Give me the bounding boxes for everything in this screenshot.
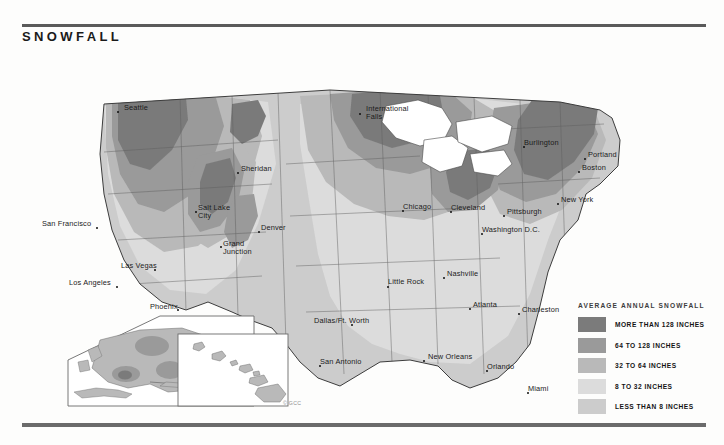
city-label: Seattle — [124, 104, 148, 112]
legend-swatch — [578, 379, 606, 394]
city-label: Washington D.C. — [482, 226, 540, 234]
legend-entry: 8 TO 32 INCHES — [578, 378, 718, 395]
legend-swatch — [578, 338, 606, 353]
legend-swatch — [578, 317, 606, 332]
city-label: Charleston — [522, 306, 559, 314]
city-label: Nashville — [447, 270, 478, 278]
city-label: Chicago — [403, 203, 431, 211]
city-label: Phoenix — [150, 303, 178, 311]
legend-rows: MORE THAN 128 INCHES64 TO 128 INCHES32 T… — [578, 316, 718, 415]
city-label: Salt Lake City — [198, 204, 244, 221]
legend-label: MORE THAN 128 INCHES — [615, 321, 705, 328]
city-label: Boston — [582, 164, 606, 172]
city-label: Denver — [261, 224, 286, 232]
city-label: Dallas/Ft. Worth — [314, 317, 369, 325]
city-label: Miami — [528, 385, 548, 393]
city-label: Sheridan — [241, 165, 272, 173]
city-label: International Falls — [366, 105, 412, 122]
footer-rule-bottom — [22, 423, 706, 427]
city-label: San Antonio — [320, 358, 362, 366]
city-label: Atlanta — [473, 301, 497, 309]
legend-entry: MORE THAN 128 INCHES — [578, 316, 718, 333]
legend-label: 32 TO 64 INCHES — [615, 362, 677, 369]
city-label: Cleveland — [451, 204, 485, 212]
city-label: Little Rock — [388, 278, 434, 286]
city-label: Grand Junction — [223, 240, 269, 257]
city-label: Portland — [588, 151, 617, 159]
city-label: Orlando — [487, 363, 514, 371]
header-rule-top — [22, 24, 706, 27]
legend-swatch — [578, 399, 606, 414]
copyright-notice: © GCC — [283, 400, 301, 406]
legend-label: 64 TO 128 INCHES — [615, 342, 681, 349]
hawaii-inset — [178, 334, 288, 406]
city-label: Los Angeles — [69, 279, 111, 287]
city-label: Las Vegas — [121, 262, 157, 270]
legend-entry: 32 TO 64 INCHES — [578, 357, 718, 374]
legend-swatch — [578, 358, 606, 373]
legend-label: 8 TO 32 INCHES — [615, 383, 672, 390]
city-label: Burlington — [524, 139, 559, 147]
legend-entry: 64 TO 128 INCHES — [578, 337, 718, 354]
city-label: New York — [561, 196, 593, 204]
legend-label: LESS THAN 8 INCHES — [615, 403, 694, 410]
legend-entry: LESS THAN 8 INCHES — [578, 398, 718, 415]
page-title: SNOWFALL — [22, 29, 122, 44]
city-label: Pittsburgh — [507, 208, 542, 216]
map-legend: AVERAGE ANNUAL SNOWFALL MORE THAN 128 IN… — [578, 302, 718, 419]
city-label: San Francisco — [42, 220, 91, 228]
legend-title: AVERAGE ANNUAL SNOWFALL — [578, 302, 718, 309]
city-label: New Orleans — [428, 353, 472, 361]
